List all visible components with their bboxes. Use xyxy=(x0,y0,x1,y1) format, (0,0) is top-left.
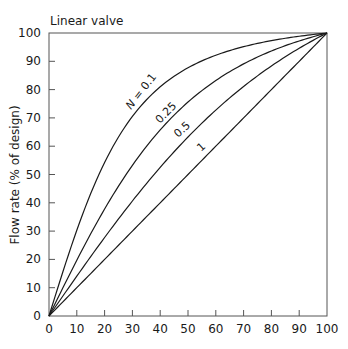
y-tick-label: 0 xyxy=(33,309,41,323)
x-tick-label: 50 xyxy=(180,322,195,336)
x-tick-label: 60 xyxy=(208,322,223,336)
curve-line xyxy=(49,33,327,316)
y-tick-label: 80 xyxy=(26,83,41,97)
x-tick-label: 10 xyxy=(69,322,84,336)
y-tick-label: 70 xyxy=(26,111,41,125)
y-tick-label: 40 xyxy=(26,196,41,210)
x-tick-label: 40 xyxy=(153,322,168,336)
curve-label: 0.25 xyxy=(153,99,179,126)
y-axis-label: Flow rate (% of design) xyxy=(8,105,22,244)
x-tick-label: 70 xyxy=(236,322,251,336)
curves xyxy=(49,33,327,316)
y-tick-label: 50 xyxy=(26,168,41,182)
x-tick-label: 100 xyxy=(316,322,339,336)
curve-label: 0.5 xyxy=(171,119,193,140)
chart: Linear valve Flow rate (% of design) 010… xyxy=(0,0,348,349)
x-tick-label: 0 xyxy=(45,322,53,336)
x-tick-label: 20 xyxy=(97,322,112,336)
y-tick-label: 10 xyxy=(26,281,41,295)
x-tick-label: 80 xyxy=(264,322,279,336)
x-tick-label: 30 xyxy=(125,322,140,336)
chart-title: Linear valve xyxy=(50,14,123,28)
x-tick-label: 90 xyxy=(292,322,307,336)
y-tick-label: 100 xyxy=(18,26,41,40)
x-axis: 0102030405060708090100 xyxy=(45,310,338,336)
y-tick-label: 30 xyxy=(26,224,41,238)
y-tick-label: 90 xyxy=(26,54,41,68)
curve-label: 1 xyxy=(194,140,208,154)
y-tick-label: 60 xyxy=(26,139,41,153)
y-tick-label: 20 xyxy=(26,252,41,266)
